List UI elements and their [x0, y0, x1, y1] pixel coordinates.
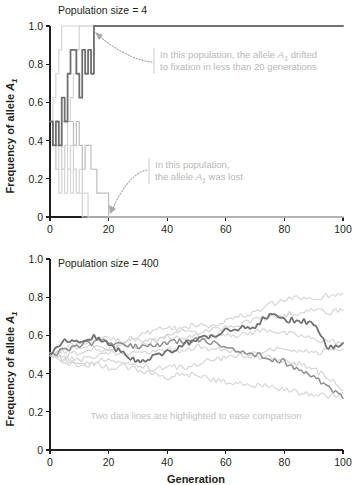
x-tick-bottom-4: 80 — [279, 456, 291, 468]
y-tick-bottom-1: 0.2 — [28, 406, 43, 418]
x-tick-bottom-2: 40 — [161, 456, 173, 468]
annotation-fixation: In this population, the allele A1 drifte… — [95, 32, 317, 74]
y-tick-bottom-2: 0.4 — [28, 368, 43, 380]
y-ticks-top: 1.0 0.8 0.6 0.4 0.2 0 — [28, 20, 50, 223]
y-ticks-bottom: 1.0 0.8 0.6 0.4 0.2 0 — [28, 253, 50, 456]
x-tick-top-5: 100 — [334, 223, 352, 235]
y-tick-bottom-5: 1.0 — [28, 253, 43, 265]
trace-light-line-6 — [50, 353, 343, 398]
panel-title-top: Population size = 4 — [58, 4, 147, 16]
x-tick-top-3: 60 — [220, 223, 232, 235]
svg-text:Frequency of allele A1: Frequency of allele A1 — [4, 311, 19, 427]
y-tick-bottom-3: 0.6 — [28, 329, 43, 341]
annotation-fixation-line2: to fixation in less than 20 generations — [160, 61, 317, 72]
annotation-lost-line1: In this population, — [155, 159, 229, 170]
x-tick-bottom-3: 60 — [220, 456, 232, 468]
x-tick-top-2: 40 — [161, 223, 173, 235]
y-tick-top-2: 0.4 — [28, 135, 43, 147]
y-axis-title-top: Frequency of allele A1 — [4, 78, 19, 194]
genetic-drift-figure: Population size = 4 Frequency of allele … — [0, 0, 360, 485]
y-tick-top-3: 0.6 — [28, 96, 43, 108]
x-ticks-bottom: 0 20 40 60 80 100 — [47, 450, 352, 468]
x-tick-bottom-0: 0 — [47, 456, 53, 468]
y-tick-bottom-4: 0.8 — [28, 291, 43, 303]
panel-population-400: Population size = 400 Frequency of allel… — [0, 243, 360, 485]
y-tick-top-1: 0.2 — [28, 173, 43, 185]
y-axis-title-bottom: Frequency of allele A1 — [4, 311, 19, 427]
x-tick-bottom-5: 100 — [334, 456, 352, 468]
annotation-lost-line2: the allele A1 was lost — [155, 171, 243, 184]
trace-group-bottom — [50, 293, 343, 398]
x-axis-title: Generation — [167, 473, 225, 485]
x-tick-top-1: 20 — [103, 223, 115, 235]
panel-title-bottom: Population size = 400 — [58, 257, 159, 269]
y-tick-bottom-0: 0 — [37, 444, 43, 456]
x-tick-top-4: 80 — [279, 223, 291, 235]
panel-population-4: Population size = 4 Frequency of allele … — [0, 0, 360, 243]
panel-caption-bottom: Two data lines are highlighted to ease c… — [90, 410, 301, 421]
x-tick-top-0: 0 — [47, 223, 53, 235]
trace-fixed-population — [50, 26, 343, 145]
y-tick-top-0: 0 — [37, 211, 43, 223]
x-ticks-top: 0 20 40 60 80 100 — [47, 217, 352, 235]
axis-lines-bottom — [50, 259, 343, 450]
annotation-fixation-line1: In this population, the allele A1 drifte… — [160, 49, 317, 62]
svg-text:Frequency of allele A1: Frequency of allele A1 — [4, 78, 19, 194]
y-tick-top-5: 1.0 — [28, 20, 43, 32]
annotation-lost: In this population, the allele A1 was lo… — [109, 158, 243, 214]
chart-population-4: Population size = 4 Frequency of allele … — [0, 0, 360, 243]
y-tick-top-4: 0.8 — [28, 58, 43, 70]
chart-population-400: Population size = 400 Frequency of allel… — [0, 243, 360, 485]
x-tick-bottom-1: 20 — [103, 456, 115, 468]
